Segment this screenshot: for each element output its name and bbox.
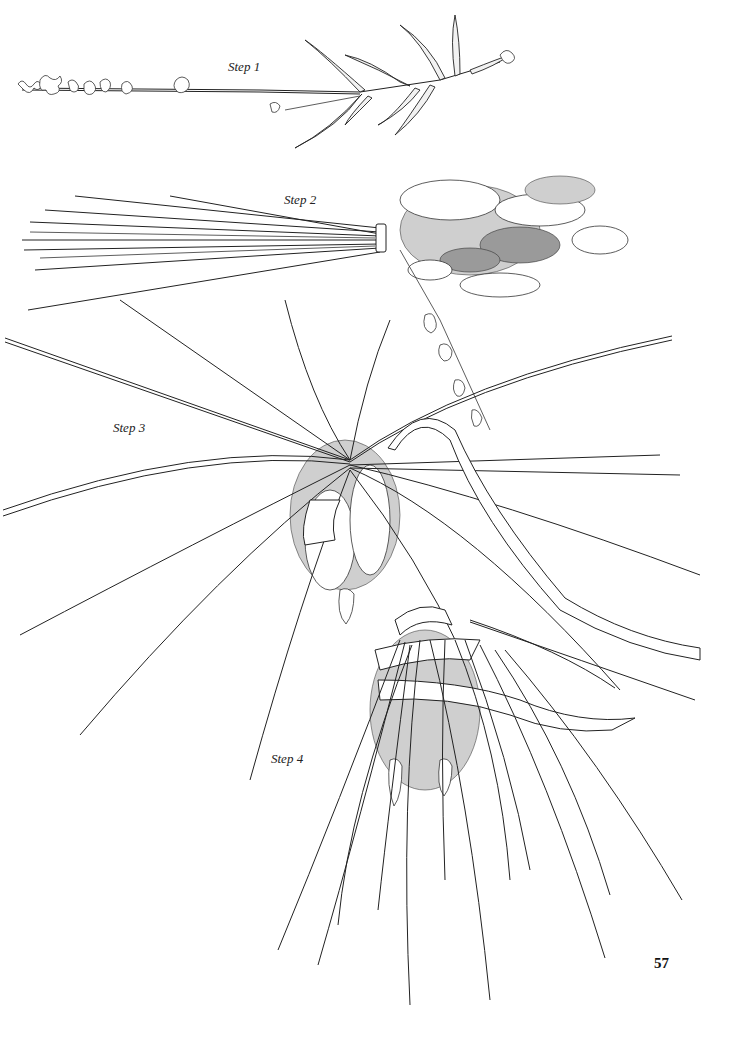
- step-4-illustration: [278, 607, 695, 1005]
- page-number: 57: [654, 955, 669, 972]
- step-4-label: Step 4: [271, 751, 303, 767]
- step-1-illustration: [18, 15, 515, 148]
- step-3-label: Step 3: [113, 420, 145, 436]
- step-2-flower-heads: [400, 176, 628, 297]
- illustrated-page: Step 1 Step 2 Step 3 Step 4 57: [0, 0, 744, 1042]
- step-1-label: Step 1: [228, 59, 260, 75]
- step-2-illustration: [22, 176, 628, 430]
- lavender-wand-illustration: [0, 0, 744, 1042]
- step-2-label: Step 2: [284, 192, 316, 208]
- step-3-illustration: [3, 300, 700, 780]
